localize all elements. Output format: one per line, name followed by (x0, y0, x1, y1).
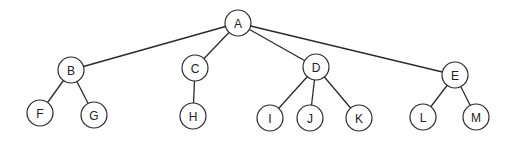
node-h: H (180, 103, 206, 129)
node-j: J (297, 105, 323, 131)
node-label: M (471, 111, 481, 125)
node-label: E (451, 69, 459, 83)
node-m: M (463, 104, 489, 130)
node-label: L (420, 111, 427, 125)
edge-a-b (71, 23, 238, 70)
node-label: B (67, 64, 75, 78)
node-label: I (268, 112, 271, 126)
node-g: G (81, 102, 107, 128)
node-label: C (191, 62, 200, 76)
node-c: C (182, 55, 208, 81)
node-a: A (225, 10, 251, 36)
node-b: B (58, 57, 84, 83)
node-label: G (89, 109, 98, 123)
node-k: K (346, 105, 372, 131)
tree-diagram: ABCDEFGHIJKLM (0, 0, 516, 141)
node-label: A (234, 17, 242, 31)
node-label: H (189, 110, 198, 124)
node-l: L (410, 104, 436, 130)
node-label: J (307, 112, 313, 126)
node-e: E (442, 62, 468, 88)
edge-a-e (238, 23, 455, 75)
edges-layer (40, 23, 476, 118)
node-i: I (257, 105, 283, 131)
node-label: D (312, 61, 321, 75)
node-f: F (27, 100, 53, 126)
node-d: D (303, 54, 329, 80)
node-label: K (355, 112, 363, 126)
node-label: F (36, 107, 43, 121)
